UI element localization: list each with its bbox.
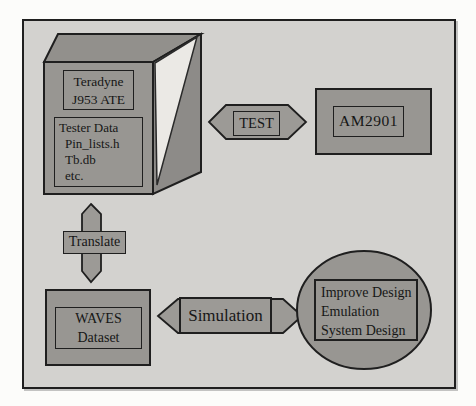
ate-title-line-1: Teradyne <box>64 73 133 91</box>
am2901-label-box: AM2901 <box>333 106 404 137</box>
waves-label-box: WAVES Dataset <box>55 307 142 349</box>
design-line-1: Improve Design <box>321 283 416 302</box>
tester-data-box: Tester Data Pin_lists.h Tb.db etc. <box>54 117 143 187</box>
translate-arrow-label: Translate <box>63 231 126 254</box>
design-line-2: Emulation <box>321 302 416 321</box>
tester-data-line-3: Tb.db <box>65 152 142 168</box>
design-line-3: System Design <box>321 321 416 340</box>
ate-title-box: Teradyne J953 ATE <box>63 70 134 110</box>
ate-title-line-2: J953 ATE <box>64 91 133 109</box>
test-arrow-label: TEST <box>233 111 280 136</box>
waves-line-1: WAVES <box>56 309 141 328</box>
waves-line-2: Dataset <box>56 328 141 347</box>
tester-data-line-1: Tester Data <box>59 120 142 136</box>
tester-data-line-2: Pin_lists.h <box>65 136 142 152</box>
design-label-box: Improve Design Emulation System Design <box>314 279 418 341</box>
simulation-arrow-label: Simulation <box>179 297 272 334</box>
scanned-diagram-page: Teradyne J953 ATE Tester Data Pin_lists.… <box>0 0 476 406</box>
tester-data-line-4: etc. <box>65 168 142 184</box>
